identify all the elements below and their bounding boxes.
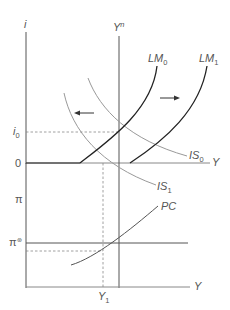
top-x-axis-label: Y — [212, 156, 220, 168]
is1-label: IS1 — [157, 180, 172, 195]
bottom-x-axis-label: Y — [194, 280, 202, 292]
target-inflation-label: π⊛ — [9, 236, 22, 248]
pc-label: PC — [161, 200, 176, 212]
lm-shift-right-arrow — [160, 96, 180, 101]
lm0-label: LM0 — [148, 52, 167, 67]
is-shift-left-arrow — [74, 111, 94, 116]
is0-label: IS0 — [189, 149, 204, 164]
bottom-y-axis-label: π — [15, 193, 23, 205]
is-lm-pc-diagram: i Y 0 i0 Yn IS0 IS1 LM0 LM1 π Y π⊛ PC Y1 — [0, 0, 230, 310]
top-y-axis-label: i — [24, 18, 27, 30]
tick-i0: i0 — [13, 125, 20, 140]
tick-y1: Y1 — [98, 290, 110, 305]
tick-zero: 0 — [15, 157, 21, 169]
pc-curve — [71, 206, 158, 265]
lm1-label: LM1 — [199, 52, 218, 67]
natural-output-label: Yn — [113, 20, 125, 33]
